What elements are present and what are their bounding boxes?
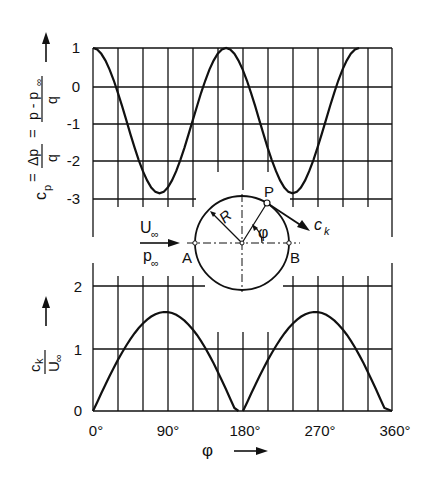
center-marker bbox=[240, 241, 244, 245]
ylabel-num1: Δp bbox=[25, 149, 41, 166]
xtick-360: 360° bbox=[379, 422, 410, 439]
cp-curve bbox=[93, 48, 359, 193]
point-a-marker bbox=[193, 241, 197, 245]
ytick-top-m2: -2 bbox=[67, 152, 80, 169]
point-p-marker bbox=[264, 200, 270, 206]
label-ck-sub: k bbox=[324, 225, 330, 237]
xtick-270: 270° bbox=[304, 422, 335, 439]
bottom-plot-ylabel: c k U ∞ bbox=[26, 350, 64, 374]
x-axis-label: φ bbox=[202, 441, 213, 460]
label-b: B bbox=[290, 249, 300, 266]
label-u-inf-sub: ∞ bbox=[151, 228, 159, 240]
point-b-marker bbox=[287, 241, 291, 245]
ytick-top-1: 1 bbox=[72, 39, 80, 56]
ytick-bottom-1: 1 bbox=[74, 341, 82, 358]
bottom-plot-yticks: 2 1 0 bbox=[74, 278, 82, 419]
ytick-bottom-2: 2 bbox=[74, 278, 82, 295]
xtick-180: 180° bbox=[229, 422, 260, 439]
top-plot-ylabel: c p = Δp q = p - p ∞ q bbox=[24, 76, 60, 200]
xtick-90: 90° bbox=[157, 422, 180, 439]
ylabel-den2: q bbox=[44, 96, 60, 104]
ylabel-ck: c bbox=[26, 364, 43, 372]
top-ylabel-arrow-icon bbox=[42, 32, 50, 62]
chart-canvas: 1 0 -1 -2 -3 c p = Δp q = p - p ∞ q bbox=[0, 0, 439, 477]
x-axis-arrow-icon bbox=[234, 447, 268, 455]
ck-curve bbox=[93, 312, 239, 411]
freestream-arrow-icon bbox=[140, 239, 180, 247]
bottom-ylabel-arrow-icon bbox=[42, 296, 50, 326]
ylabel-u-sub: ∞ bbox=[52, 354, 64, 362]
x-axis-ticks: 0° 90° 180° 270° 360° bbox=[89, 422, 411, 439]
label-p-inf-sub: ∞ bbox=[151, 257, 159, 269]
ylabel-num2: p - p bbox=[25, 92, 41, 120]
ylabel-eq2: = bbox=[24, 129, 41, 138]
ytick-top-m1: -1 bbox=[67, 115, 80, 132]
label-phi: φ bbox=[258, 224, 268, 241]
label-p: P bbox=[264, 183, 274, 200]
ylabel-eq1: = bbox=[24, 173, 41, 182]
ytick-top-0: 0 bbox=[72, 78, 80, 95]
ytick-top-m3: -3 bbox=[67, 190, 80, 207]
ylabel-den1: q bbox=[44, 154, 60, 162]
label-ck: c bbox=[314, 216, 322, 233]
tangent-arrow-icon bbox=[297, 220, 310, 231]
ylabel-cp-sub: p bbox=[41, 185, 53, 191]
ylabel-ck-sub: k bbox=[33, 358, 45, 364]
ylabel-cp: c bbox=[32, 192, 49, 200]
label-u-inf: U bbox=[140, 219, 152, 236]
top-plot-yticks: 1 0 -1 -2 -3 bbox=[67, 39, 80, 207]
ytick-bottom-0: 0 bbox=[74, 402, 82, 419]
label-a: A bbox=[182, 249, 192, 266]
xtick-0: 0° bbox=[89, 422, 103, 439]
